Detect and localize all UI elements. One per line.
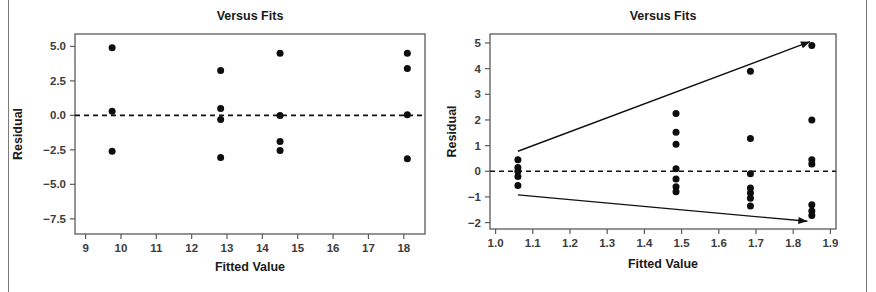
- x-axis-title: Fitted Value: [628, 257, 698, 271]
- data-point: [277, 50, 284, 57]
- data-point: [808, 212, 815, 219]
- data-point: [404, 50, 411, 57]
- data-point: [673, 141, 680, 148]
- lower-funnel-line: [518, 195, 807, 221]
- data-point: [673, 165, 680, 172]
- data-point: [277, 112, 284, 119]
- data-point: [404, 65, 411, 72]
- x-axis-tick-label: 13: [221, 242, 234, 254]
- y-axis-tick-label: −2.5: [43, 144, 66, 156]
- x-axis-tick-label: 9: [82, 242, 88, 254]
- x-axis-tick-label: 11: [150, 242, 163, 254]
- data-point: [277, 138, 284, 145]
- data-point: [217, 116, 224, 123]
- y-axis-tick-label: 4: [475, 63, 482, 75]
- x-axis-tick-label: 1.1: [525, 237, 542, 249]
- y-axis-title: Residual: [445, 105, 459, 157]
- y-axis-tick-label: 2: [475, 114, 481, 126]
- y-axis-tick-label: −5.0: [43, 178, 66, 190]
- y-axis-tick-label: 3: [475, 88, 481, 100]
- versus-fits-plot-right-svg: Versus Fits543210−1−21.01.11.21.31.41.51…: [438, 0, 876, 292]
- plot-area-border: [75, 34, 425, 234]
- data-point: [673, 129, 680, 136]
- x-axis-tick-label: 1.5: [674, 237, 691, 249]
- data-point: [673, 110, 680, 117]
- data-point: [808, 201, 815, 208]
- data-point: [673, 188, 680, 195]
- data-point: [514, 173, 521, 180]
- chart-title: Versus Fits: [630, 9, 697, 23]
- data-point: [277, 147, 284, 154]
- data-point: [747, 135, 754, 142]
- x-axis-tick-label: 16: [327, 242, 340, 254]
- x-axis-tick-label: 1.8: [785, 237, 802, 249]
- y-axis-tick-label: 2.5: [50, 75, 67, 87]
- x-axis-tick-label: 1.9: [822, 237, 838, 249]
- y-axis-title: Residual: [11, 108, 25, 160]
- x-axis-tick-label: 1.0: [488, 237, 504, 249]
- x-axis-tick-label: 1.6: [711, 237, 727, 249]
- data-point: [109, 44, 116, 51]
- x-axis-title: Fitted Value: [215, 260, 285, 274]
- upper-funnel-line: [518, 42, 810, 152]
- data-point: [109, 108, 116, 115]
- x-axis-tick-label: 1.3: [599, 237, 615, 249]
- x-axis-tick-label: 10: [115, 242, 128, 254]
- data-point: [808, 42, 815, 49]
- data-point: [808, 161, 815, 168]
- chart-title: Versus Fits: [217, 9, 284, 23]
- x-axis-tick-label: 12: [185, 242, 198, 254]
- x-axis-tick-label: 17: [362, 242, 375, 254]
- plot-area-border: [490, 34, 836, 229]
- y-axis-tick-label: 5: [475, 37, 482, 49]
- data-point: [808, 116, 815, 123]
- data-point: [514, 156, 521, 163]
- y-axis-tick-label: 1: [475, 140, 482, 152]
- data-point: [217, 105, 224, 112]
- data-point: [747, 68, 754, 75]
- data-point: [673, 175, 680, 182]
- data-point: [109, 148, 116, 155]
- x-axis-tick-label: 18: [397, 242, 410, 254]
- data-point: [747, 202, 754, 209]
- versus-fits-plot-left-svg: Versus Fits5.02.50.0−2.5−5.0−7.591011121…: [0, 0, 438, 292]
- versus-fits-chart-right: Versus Fits543210−1−21.01.11.21.31.41.51…: [438, 0, 876, 292]
- data-point: [747, 170, 754, 177]
- versus-fits-chart-left: Versus Fits5.02.50.0−2.5−5.0−7.591011121…: [0, 0, 438, 292]
- x-axis-tick-label: 15: [291, 242, 304, 254]
- data-point: [217, 154, 224, 161]
- y-axis-tick-label: 0.0: [50, 109, 66, 121]
- x-axis-tick-label: 1.7: [748, 237, 764, 249]
- x-axis-tick-label: 14: [256, 242, 269, 254]
- y-axis-tick-label: −2: [468, 217, 481, 229]
- y-axis-tick-label: −1: [468, 191, 482, 203]
- data-point: [404, 111, 411, 118]
- figure-root: Versus Fits5.02.50.0−2.5−5.0−7.591011121…: [0, 0, 876, 292]
- y-axis-tick-label: −7.5: [43, 213, 66, 225]
- x-axis-tick-label: 1.2: [562, 237, 578, 249]
- data-point: [747, 195, 754, 202]
- data-point: [217, 67, 224, 74]
- y-axis-tick-label: 0: [475, 165, 481, 177]
- data-point: [404, 155, 411, 162]
- y-axis-tick-label: 5.0: [50, 40, 66, 52]
- data-point: [514, 182, 521, 189]
- x-axis-tick-label: 1.4: [636, 237, 653, 249]
